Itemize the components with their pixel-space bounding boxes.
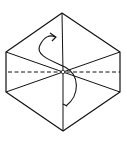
fold-diagram xyxy=(0,0,127,141)
fold-arrow xyxy=(39,36,76,106)
arrowhead-icon xyxy=(50,33,56,41)
center-point xyxy=(61,70,65,74)
